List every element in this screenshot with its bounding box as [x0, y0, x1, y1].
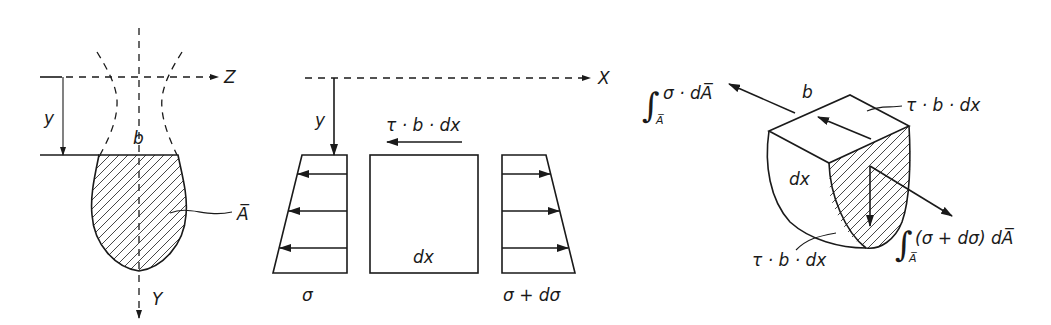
- left-stress-distribution: [273, 155, 347, 273]
- right-force-label: (σ + dσ) dA̅: [915, 227, 1015, 248]
- width-b-label-iso: b: [802, 82, 813, 102]
- hatch-line: [107, 150, 232, 275]
- hatch-line: [170, 150, 295, 275]
- element-dx-label-iso: dx: [789, 169, 811, 189]
- top-face: [769, 95, 909, 163]
- y-distance-label: y: [43, 108, 55, 128]
- isometric-panel: ∫ A̅ σ · dA̅ b τ · b · dx dx τ · b · dx …: [642, 82, 1050, 270]
- hatch-line: [197, 150, 322, 275]
- hatch-line: [8, 150, 133, 275]
- right-force-arrow: [870, 166, 952, 216]
- y-distance-label-side: y: [314, 110, 326, 130]
- hatch-line: [0, 150, 88, 275]
- hatch-line: [0, 150, 97, 275]
- upper-outline-right: [162, 52, 182, 155]
- hatch-line: [0, 150, 124, 275]
- width-b-label: b: [133, 128, 144, 148]
- bottom-shear-leader: [796, 233, 836, 250]
- top-shear-label: τ · b · dx: [906, 95, 981, 115]
- right-integral-subscript: A̅: [908, 252, 918, 265]
- shear-force-label: τ · b · dx: [386, 115, 461, 135]
- left-stress-label: σ: [302, 285, 314, 305]
- right-stress-label: σ + dσ: [503, 285, 562, 305]
- right-stress-distribution: [502, 155, 575, 273]
- hatch-line: [17, 150, 142, 275]
- hatch-line: [44, 150, 169, 275]
- upper-outline-left: [97, 52, 117, 155]
- hatch-line: [89, 150, 214, 275]
- hatch-line: [801, 120, 933, 252]
- hatch-line: [71, 150, 196, 275]
- hatch-line: [161, 150, 286, 275]
- z-axis-label: Z: [223, 67, 236, 87]
- hatch-line: [747, 120, 879, 252]
- hatch-line: [53, 150, 178, 275]
- beam-shear-diagram: Z Y y b A̅ X y τ · b · dx dx σ σ + dσ: [0, 0, 1051, 325]
- hatch-line: [711, 120, 843, 252]
- left-force-arrow: [729, 84, 795, 113]
- left-curved-face: [767, 131, 866, 248]
- area-label: A̅: [236, 203, 250, 224]
- hatch-line: [26, 150, 151, 275]
- hatch-line: [116, 150, 241, 275]
- left-integral-subscript: A̅: [655, 114, 665, 127]
- hatch-line: [756, 120, 888, 252]
- left-force-label: σ · dA̅: [663, 82, 714, 103]
- bottom-shear-label: τ · b · dx: [752, 250, 827, 270]
- y-axis-label: Y: [152, 289, 164, 309]
- top-shear-arrow: [818, 117, 871, 139]
- side-view-panel: X y τ · b · dx dx σ σ + dσ: [273, 68, 610, 305]
- element-dx-label: dx: [413, 247, 435, 267]
- hatch-line: [0, 150, 106, 275]
- cross-section-panel: Z Y y b A̅: [0, 28, 322, 318]
- hatch-line: [35, 150, 160, 275]
- x-axis-label: X: [597, 68, 610, 88]
- hatched-area: [0, 150, 322, 275]
